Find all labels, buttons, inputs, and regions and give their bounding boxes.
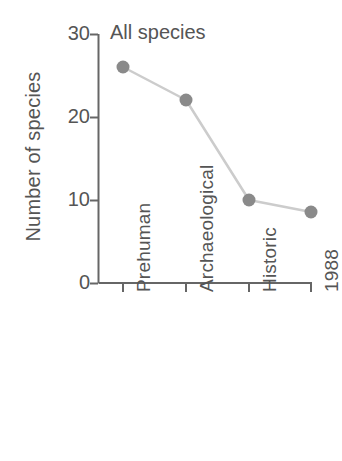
x-tick-label-archaeological: Archaeological [196, 165, 218, 292]
x-tick-label-historic: Historic [259, 227, 281, 292]
data-point-archaeological[interactable] [180, 94, 193, 107]
chart-figure: Number of species 30 20 10 0 [0, 0, 342, 461]
x-tick-label-prehuman: Prehuman [133, 203, 155, 292]
series-annotation-label: All species [110, 21, 206, 44]
plot-area [0, 0, 342, 461]
data-point-1988[interactable] [305, 206, 318, 219]
plot-canvas [0, 0, 342, 461]
data-point-prehuman[interactable] [117, 61, 130, 74]
data-point-historic[interactable] [243, 194, 256, 207]
x-tick-label-1988: 1988 [321, 249, 342, 292]
